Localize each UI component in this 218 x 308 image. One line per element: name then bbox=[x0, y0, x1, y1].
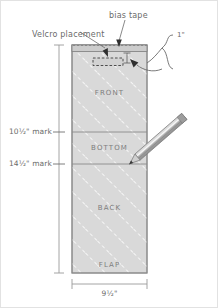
panel-label-front: FRONT bbox=[72, 89, 147, 97]
width-dimension-line bbox=[72, 279, 147, 289]
height-dimension-line bbox=[54, 45, 64, 273]
bias-tape-leader bbox=[116, 20, 125, 47]
callout-velcro-placement: Velcro placement bbox=[32, 30, 105, 39]
panel-label-flap: FLAP bbox=[72, 261, 147, 269]
width-dimension-label: 9½" bbox=[72, 289, 147, 298]
panel-label-back: BACK bbox=[72, 204, 147, 212]
mark-label-14half: 14½" mark bbox=[9, 159, 52, 168]
velcro-rectangle bbox=[93, 58, 123, 66]
panel-label-bottom: BOTTOM bbox=[72, 144, 147, 152]
diagram-canvas: bias tape Velcro placement 1" 10½" mark … bbox=[1, 1, 217, 307]
bias-tape-band bbox=[72, 45, 147, 52]
callout-bias-tape: bias tape bbox=[109, 11, 148, 20]
callout-one-inch: 1" bbox=[177, 31, 185, 39]
mark-label-10half: 10½" mark bbox=[9, 127, 52, 136]
